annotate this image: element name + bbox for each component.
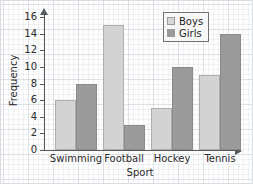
- y-axis-tick-label: 0: [31, 145, 37, 155]
- bar-hockey-girls: [172, 67, 193, 150]
- y-axis-tick-label: 10: [24, 62, 37, 72]
- y-axis-tick-label: 8: [31, 79, 37, 89]
- y-axis-tick: [40, 34, 45, 35]
- x-axis-title: Sport: [44, 167, 236, 178]
- y-axis-title: Frequency: [8, 42, 19, 120]
- chart-legend: Boys Girls: [163, 12, 209, 42]
- chart-plot-area: 0246810121416 SwimmingFootballHockeyTenn…: [0, 0, 253, 184]
- x-axis-label-tennis: Tennis: [190, 153, 250, 165]
- legend-item-boys: Boys: [167, 15, 203, 27]
- legend-swatch-girls-icon: [167, 29, 175, 37]
- y-axis-tick: [40, 100, 45, 101]
- legend-label-girls: Girls: [179, 28, 202, 39]
- bar-football-girls: [124, 125, 145, 150]
- legend-item-girls: Girls: [167, 27, 203, 39]
- bar-tennis-girls: [220, 34, 241, 150]
- y-axis-tick-label: 14: [24, 29, 37, 39]
- y-axis-tick: [40, 117, 45, 118]
- y-axis-tick-label: 16: [24, 12, 37, 22]
- y-axis-tick: [40, 50, 45, 51]
- y-axis-tick: [40, 150, 45, 151]
- y-axis-tick: [40, 17, 45, 18]
- y-axis-tick: [40, 133, 45, 134]
- y-axis-tick-label: 4: [31, 112, 37, 122]
- y-axis-tick-label: 6: [31, 95, 37, 105]
- bar-swimming-boys: [55, 100, 76, 150]
- x-axis-line: [44, 150, 236, 151]
- y-axis-tick: [40, 84, 45, 85]
- y-axis-arrow-icon: [40, 8, 48, 15]
- bar-football-boys: [103, 25, 124, 150]
- y-axis-tick: [40, 67, 45, 68]
- legend-swatch-boys-icon: [167, 17, 175, 25]
- bar-hockey-boys: [151, 108, 172, 150]
- bar-tennis-boys: [199, 75, 220, 150]
- y-axis-tick-label: 2: [31, 128, 37, 138]
- bar-chart-screenshot: 0246810121416 SwimmingFootballHockeyTenn…: [0, 0, 253, 184]
- legend-label-boys: Boys: [179, 16, 203, 27]
- y-axis-tick-label: 12: [24, 45, 37, 55]
- bar-swimming-girls: [76, 84, 97, 151]
